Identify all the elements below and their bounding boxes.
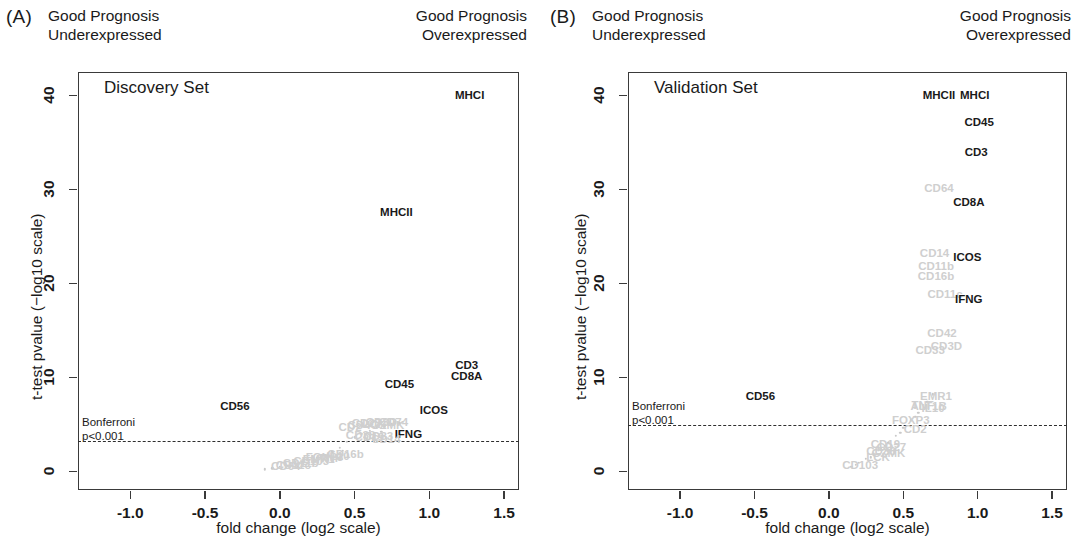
x-tick-mark — [354, 491, 355, 499]
point-label-cd8a: CD8A — [451, 370, 482, 382]
point-label-cd2: CD2 — [904, 423, 927, 435]
x-tick-label: 0.0 — [246, 504, 314, 522]
x-tick-label: -0.5 — [720, 504, 788, 522]
x-tick-mark — [977, 491, 978, 499]
point-label-cd64: CD64 — [271, 460, 300, 472]
point-label-cd14: CD14 — [371, 433, 400, 445]
x-tick-label: 1.0 — [395, 504, 463, 522]
bonferroni-threshold-line — [78, 441, 519, 442]
point-label-mhcii: MHCII — [923, 89, 956, 101]
panel-b-letter: (B) — [550, 6, 576, 28]
point-label-icos: ICOS — [953, 251, 981, 263]
y-tick-label: 30 — [40, 172, 58, 206]
point-label-cd45: CD45 — [385, 378, 414, 390]
panel-b-y-axis-title: t-test pvalue (−log10 scale) — [572, 213, 590, 400]
point-label-cd3: CD3 — [455, 359, 478, 371]
x-tick-mark — [503, 491, 504, 499]
x-tick-mark — [130, 491, 131, 499]
x-tick-mark — [429, 491, 430, 499]
panel-b-plot-area — [628, 72, 1067, 490]
y-tick-label: 20 — [40, 266, 58, 300]
point-label-cd3: CD3 — [965, 146, 988, 158]
point-label-cd16b: CD16b — [918, 270, 954, 282]
point-label-mhci: MHCI — [455, 89, 484, 101]
panel-a-set-name: Discovery Set — [104, 78, 209, 98]
point-label-icos: ICOS — [420, 404, 448, 416]
x-tick-label: 1.5 — [1018, 504, 1086, 522]
panel-b-bonferroni-annotation: Bonferronip<0.001 — [632, 400, 685, 427]
volcano-plot-figure: (A) Good Prognosis Underexpressed Good P… — [0, 0, 1089, 550]
y-tick-mark — [619, 377, 627, 378]
point-label-mhci: MHCI — [960, 89, 989, 101]
panel-a: (A) Good Prognosis Underexpressed Good P… — [0, 0, 545, 550]
y-tick-mark — [619, 95, 627, 96]
panel-a-bonferroni-annotation: Bonferronip<0.001 — [82, 416, 135, 443]
y-tick-mark — [69, 471, 77, 472]
panel-b-bonferroni-line1: Bonferroni — [632, 400, 685, 412]
x-tick-mark — [279, 491, 280, 499]
point-label-cd42: CD42 — [927, 327, 956, 339]
y-tick-mark — [69, 377, 77, 378]
panel-b-bonferroni-line2: p<0.001 — [632, 414, 674, 426]
y-tick-label: 40 — [40, 78, 58, 112]
point-label-cd74: CD74 — [379, 416, 408, 428]
y-tick-mark — [69, 283, 77, 284]
x-tick-label: 0.0 — [795, 504, 863, 522]
x-tick-label: 0.5 — [869, 504, 937, 522]
point-label-cd45: CD45 — [964, 116, 993, 128]
x-tick-label: 1.5 — [470, 504, 538, 522]
panel-a-bonferroni-line1: Bonferroni — [82, 416, 135, 428]
x-tick-mark — [754, 491, 755, 499]
panel-a-letter: (A) — [6, 6, 32, 28]
x-tick-label: -0.5 — [171, 504, 239, 522]
point-label-lck: LCK — [866, 451, 890, 463]
x-tick-mark — [1051, 491, 1052, 499]
point-label-cd8a: CD8A — [953, 196, 984, 208]
point-label-alt1b: ALT1B — [910, 400, 946, 412]
point-label-cd56: CD56 — [746, 390, 775, 402]
y-tick-label: 10 — [40, 360, 58, 394]
y-tick-mark — [69, 95, 77, 96]
point-label-ifng: IFNG — [955, 293, 982, 305]
y-tick-mark — [619, 189, 627, 190]
panel-a-bonferroni-line2: p<0.001 — [82, 430, 124, 442]
y-tick-mark — [619, 283, 627, 284]
y-tick-mark — [69, 189, 77, 190]
x-tick-label: -1.0 — [646, 504, 714, 522]
x-tick-mark — [679, 491, 680, 499]
panel-a-plot-area — [78, 72, 519, 490]
y-tick-label: 40 — [590, 78, 608, 112]
y-tick-label: 10 — [590, 360, 608, 394]
y-tick-label: 0 — [40, 454, 58, 488]
panel-b-header-right: Good Prognosis Overexpressed — [960, 6, 1071, 44]
panel-b: (B) Good Prognosis Underexpressed Good P… — [544, 0, 1089, 550]
point-label-cd14: CD14 — [920, 247, 949, 259]
y-tick-mark — [619, 471, 627, 472]
y-tick-label: 30 — [590, 172, 608, 206]
panel-a-header-right: Good Prognosis Overexpressed — [416, 6, 527, 44]
point-label-cd16b: CD16b — [327, 448, 363, 460]
x-tick-mark — [903, 491, 904, 499]
x-tick-label: 0.5 — [321, 504, 389, 522]
x-tick-mark — [828, 491, 829, 499]
panel-a-header-left: Good Prognosis Underexpressed — [48, 6, 162, 44]
point-label-cd64: CD64 — [924, 182, 953, 194]
bonferroni-threshold-line — [628, 425, 1067, 426]
panel-b-header-left: Good Prognosis Underexpressed — [592, 6, 706, 44]
y-tick-label: 20 — [590, 266, 608, 300]
point-label-cd33: CD33 — [915, 344, 944, 356]
x-tick-label: 1.0 — [944, 504, 1012, 522]
panel-b-set-name: Validation Set — [654, 78, 758, 98]
point-label-mhcii: MHCII — [380, 206, 413, 218]
point-label-cd56: CD56 — [220, 400, 249, 412]
y-tick-label: 0 — [590, 454, 608, 488]
x-tick-label: -1.0 — [96, 504, 164, 522]
x-tick-mark — [204, 491, 205, 499]
